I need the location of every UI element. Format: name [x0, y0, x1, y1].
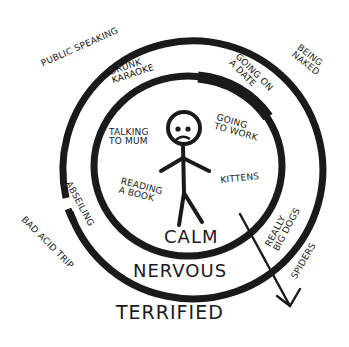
comfort-zone-diagram: CALM NERVOUS TERRIFIED TALKING TO MUM RE…: [0, 0, 349, 347]
zone-label-calm: CALM: [164, 228, 218, 246]
stick-figure: [161, 112, 209, 225]
calm-item-talking-to-mum: TALKING TO MUM: [109, 128, 149, 146]
figure-right-leg: [184, 193, 202, 222]
figure-right-arm: [183, 158, 209, 171]
figure-body: [183, 145, 184, 193]
worried-face-icon: [175, 126, 190, 140]
figure-head: [168, 112, 200, 144]
zone-label-nervous: NERVOUS: [133, 262, 227, 280]
zone-label-terrified: TERRIFIED: [116, 303, 224, 322]
figure-left-leg: [179, 193, 184, 225]
figure-left-arm: [161, 158, 183, 171]
